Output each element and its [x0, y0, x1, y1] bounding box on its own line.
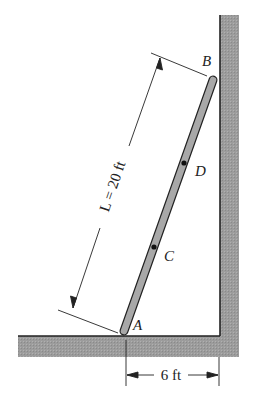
label-b: B: [202, 53, 211, 69]
base-label: 6 ft: [161, 367, 182, 383]
label-d: D: [194, 163, 206, 179]
extension-line-bottom: [58, 310, 118, 333]
arrowhead-top: [157, 58, 163, 70]
floor: [18, 336, 239, 357]
length-dimension: [58, 53, 207, 333]
ladder: [124, 80, 213, 331]
ladder-diagram: L = 20 ft 6 ft A B C D: [0, 0, 257, 407]
point-c-marker: [151, 244, 156, 249]
label-a: A: [132, 317, 143, 333]
arrowhead-right: [207, 372, 218, 378]
dimension-line-upper: [129, 58, 160, 146]
point-d-marker: [181, 160, 186, 165]
arrowhead-left: [127, 372, 138, 378]
length-label: L = 20 ft: [96, 158, 128, 214]
label-c: C: [164, 248, 175, 264]
dimension-line-lower: [73, 228, 100, 308]
wall: [220, 15, 239, 357]
arrowhead-bottom: [71, 296, 77, 308]
